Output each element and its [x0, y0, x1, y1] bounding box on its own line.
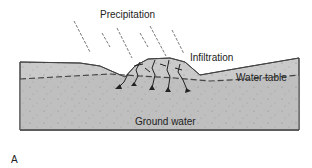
water-table-label: Water table — [236, 73, 287, 83]
ground-water-label: Ground water — [135, 117, 196, 127]
panel-label: A — [11, 155, 18, 165]
precipitation-lines — [74, 21, 184, 58]
infiltration-label: Infiltration — [190, 53, 233, 63]
groundwater-diagram — [0, 0, 312, 168]
precipitation-label: Precipitation — [100, 10, 155, 20]
